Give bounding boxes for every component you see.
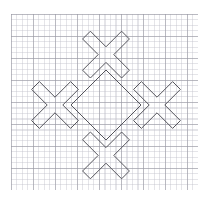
graph-paper-grid [11, 14, 198, 190]
figure-canvas [0, 0, 210, 201]
